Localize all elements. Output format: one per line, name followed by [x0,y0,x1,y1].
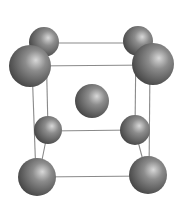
crystal-structure-diagram [0,0,188,212]
atom-bottom-front-right-sphere [129,156,167,194]
atom-bottom-back-left-sphere [34,116,62,144]
atom-bottom-front-left-sphere [18,158,56,196]
unit-cell-figure [0,0,188,212]
atom-top-front-right-sphere [132,43,174,85]
atom-bottom-back-right-sphere [120,115,150,145]
atom-body-center-sphere [75,84,109,118]
atom-top-front-left-sphere [9,45,51,87]
